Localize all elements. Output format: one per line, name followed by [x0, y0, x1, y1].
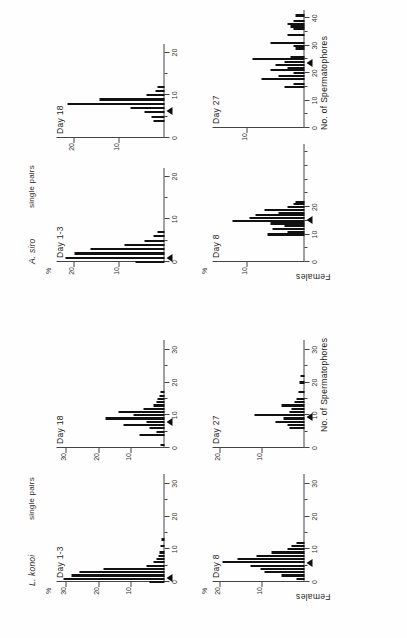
histogram-bar: [160, 444, 164, 446]
mean-marker-triangle-icon: [166, 574, 172, 582]
histogram-bar: [289, 427, 304, 429]
histogram-bar: [291, 408, 304, 410]
histogram-bar: [290, 25, 304, 27]
mean-marker-triangle-icon: [166, 418, 172, 426]
y-axis-line: [212, 127, 304, 128]
x-tick: [164, 447, 169, 448]
x-tick-label: 0: [310, 446, 317, 450]
histogram-bar: [153, 235, 164, 237]
histogram-bar: [295, 14, 304, 16]
histogram-bar: [161, 538, 164, 540]
histogram-bar: [293, 45, 305, 47]
x-tick: [304, 581, 309, 582]
histogram-bar: [146, 94, 164, 96]
histogram-bar: [296, 542, 304, 544]
histogram-bar: [287, 548, 304, 550]
histogram-bar: [287, 34, 304, 36]
x-tick-label: 30: [310, 346, 317, 354]
mean-marker-triangle-icon: [306, 59, 312, 67]
histogram-bar: [158, 555, 164, 557]
x-tick-minor: [164, 532, 168, 533]
y-tick-label: 20: [92, 453, 99, 466]
histogram-bar: [284, 225, 304, 227]
x-tick-minor: [304, 532, 308, 533]
histogram-bar: [278, 212, 304, 214]
plot-area: 0102010: [212, 144, 304, 262]
histogram-bar: [298, 391, 304, 393]
x-tick-minor: [164, 73, 168, 74]
histogram-bar: [157, 86, 164, 88]
histogram-bar: [293, 28, 305, 30]
histogram-bar: [287, 231, 304, 233]
percent-label-konoi: %: [44, 588, 51, 594]
y-axis-title-konoi: Females: [295, 592, 330, 602]
histogram-bar: [71, 574, 164, 576]
x-tick-label: 20: [310, 203, 317, 211]
x-tick: [304, 483, 309, 484]
histogram-bar: [144, 240, 164, 242]
x-tick-minor: [164, 365, 168, 366]
x-tick-label: 0: [170, 446, 177, 450]
mean-marker-triangle-icon: [166, 107, 172, 115]
histogram-bar: [146, 565, 164, 567]
histogram-bar: [159, 395, 164, 397]
mean-marker-triangle-icon: [306, 413, 312, 421]
x-tick: [304, 382, 309, 383]
x-tick-minor: [304, 192, 308, 193]
histogram-bar: [290, 56, 304, 58]
x-tick: [164, 218, 169, 219]
histogram-bar: [123, 424, 164, 426]
histogram-bar: [67, 103, 164, 105]
histogram-bar: [267, 233, 304, 235]
histogram-bar: [135, 261, 164, 263]
y-tick-label: 10: [256, 587, 263, 600]
panel-siro-day18: Day 18 010201020: [56, 44, 164, 138]
x-tick-label: 10: [310, 97, 317, 105]
x-tick: [164, 52, 169, 53]
histogram-bar: [157, 398, 164, 400]
x-tick-label: 20: [310, 379, 317, 387]
x-tick-label: 20: [170, 513, 177, 521]
y-axis-line: [212, 447, 304, 448]
x-tick: [164, 176, 169, 177]
histogram-bar: [237, 558, 304, 560]
x-tick-minor: [304, 247, 308, 248]
histogram-bar: [284, 61, 304, 63]
panel-siro-day8: Day 8 0102010: [212, 144, 304, 262]
y-tick-label: 10: [125, 453, 132, 466]
plot-area: 0102030102030: [56, 340, 164, 448]
x-tick-minor: [304, 499, 308, 500]
panel-konoi-day8: Day 8 01020301020: [212, 474, 304, 582]
mean-marker-triangle-icon: [306, 559, 312, 567]
histogram-bar: [79, 571, 164, 573]
x-tick-label: 0: [310, 260, 317, 264]
plot-area: 01020301020: [212, 340, 304, 448]
x-axis-title-siro: No. of Spermatophores: [318, 36, 328, 130]
y-tick-label: 10: [256, 453, 263, 466]
histogram-bar: [156, 401, 164, 403]
panel-siro-day27: Day 27 01020304010: [212, 10, 304, 128]
x-tick-label: 0: [310, 580, 317, 584]
x-tick-label: 20: [170, 379, 177, 387]
histogram-bar: [103, 568, 164, 570]
x-tick-label: 20: [310, 513, 317, 521]
histogram-bar: [232, 220, 304, 222]
histogram-bar: [250, 565, 304, 567]
histogram-bar: [278, 75, 304, 77]
percent-label-siro: %: [44, 268, 51, 274]
histogram-bar: [287, 424, 304, 426]
x-tick-minor: [304, 179, 308, 180]
y-axis-line: [56, 447, 164, 448]
histogram-bar: [261, 78, 304, 80]
histogram-bar: [293, 72, 305, 74]
histogram-bar: [222, 561, 304, 563]
histogram-bar: [63, 578, 164, 580]
histogram-bar: [300, 375, 304, 377]
x-tick: [304, 45, 309, 46]
histogram-bar: [294, 401, 304, 403]
x-tick: [304, 72, 309, 73]
histogram-bar: [118, 411, 164, 413]
histogram-bar: [143, 408, 164, 410]
histogram-bar: [256, 555, 304, 557]
plot-area: 010201020: [56, 44, 164, 138]
